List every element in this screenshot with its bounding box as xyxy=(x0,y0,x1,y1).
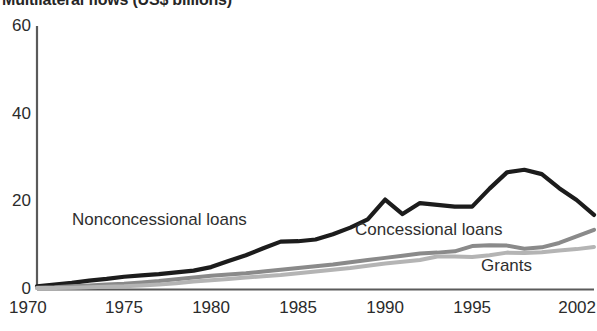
x-tick-label: 1995 xyxy=(453,299,491,316)
x-tick-label: 1990 xyxy=(366,299,404,316)
series-label: Grants xyxy=(481,257,532,274)
x-tick-label: 1975 xyxy=(105,299,143,316)
x-tick-label: 1970 xyxy=(9,299,47,316)
series-label: Nonconcessional loans xyxy=(72,211,247,228)
x-tick-label: 2002 xyxy=(558,299,596,316)
multilateral-flows-chart: Multilateral flows (US$ billions) 020406… xyxy=(0,0,597,331)
x-tick-label: 1985 xyxy=(279,299,317,316)
axis-lines xyxy=(37,26,594,290)
x-tick-label: 1980 xyxy=(192,299,230,316)
series-label: Concessional loans xyxy=(355,221,502,238)
plot-area xyxy=(0,0,597,331)
